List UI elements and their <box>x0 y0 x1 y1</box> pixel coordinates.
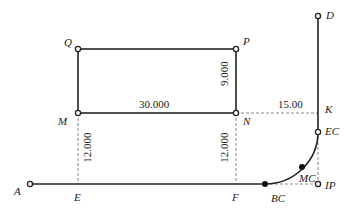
label-D: D <box>326 10 334 21</box>
label-K: K <box>325 104 332 115</box>
label-A: A <box>14 186 21 197</box>
label-Q: Q <box>64 37 72 48</box>
dashed-lines <box>78 113 318 184</box>
label-IP: IP <box>325 180 335 191</box>
label-MC: MC <box>299 173 316 184</box>
label-E: E <box>74 192 81 203</box>
label-M: M <box>58 116 67 127</box>
dimension-MN: 30.000 <box>139 99 169 110</box>
label-BC: BC <box>271 193 285 204</box>
solid-lines <box>30 16 318 184</box>
point-IP-marker <box>315 181 320 186</box>
point-D-marker <box>315 13 320 18</box>
dimension-PN: 9.000 <box>219 59 230 89</box>
point-BC-marker <box>262 181 268 187</box>
dimension-ME: 12.000 <box>82 130 93 166</box>
label-N: N <box>243 116 250 127</box>
label-EC: EC <box>325 126 339 137</box>
point-MC-marker <box>299 164 305 170</box>
point-Q-marker <box>75 46 80 51</box>
label-P: P <box>243 36 250 47</box>
label-F: F <box>232 192 239 203</box>
point-EC-marker <box>315 129 320 134</box>
point-M-marker <box>75 110 80 115</box>
point-N-marker <box>233 110 238 115</box>
dimension-NF: 12.000 <box>219 130 230 166</box>
dimension-NK: 15.00 <box>278 99 303 110</box>
point-P-marker <box>233 46 238 51</box>
point-A-marker <box>27 181 32 186</box>
